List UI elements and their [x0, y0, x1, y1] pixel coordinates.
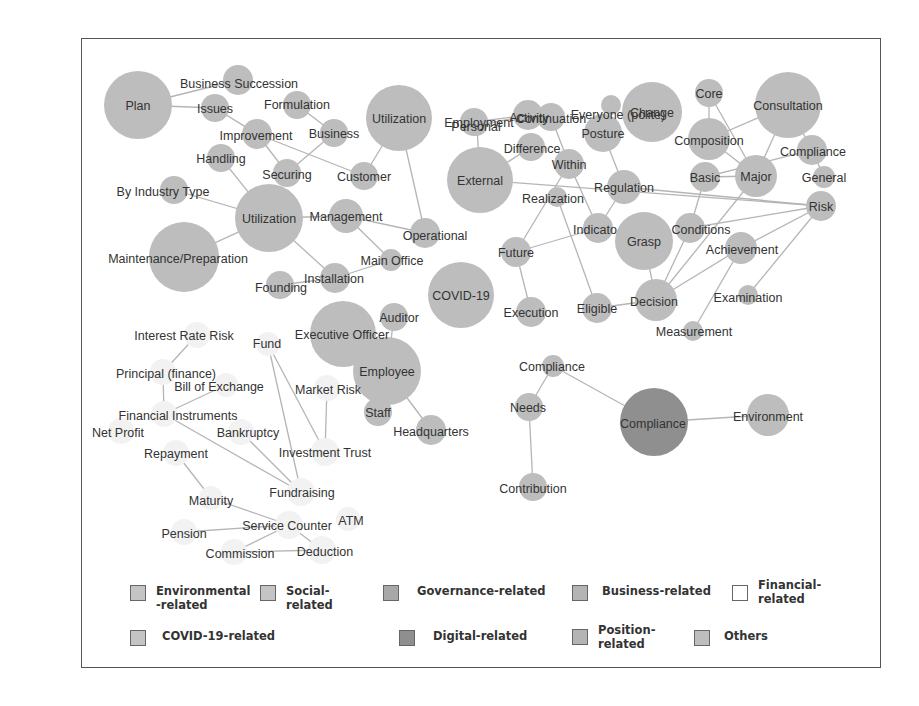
node-label-posture: Posture: [581, 127, 624, 141]
node-label-service-counter: Service Counter: [242, 519, 332, 533]
node-label-operational: Operational: [403, 229, 468, 243]
node-label-covid19: COVID-19: [432, 289, 490, 303]
legend-swatch: [260, 585, 276, 601]
node-label-realization: Realization: [522, 192, 584, 206]
node-label-major: Major: [740, 170, 771, 184]
node-label-conditions: Conditions: [671, 223, 730, 237]
node-label-customer: Customer: [337, 170, 391, 184]
node-label-future: Future: [498, 246, 534, 260]
node-label-improvement: Improvement: [220, 129, 293, 143]
node-label-compliance3: Compliance: [620, 417, 686, 431]
legend-swatch: [732, 585, 748, 601]
node-label-regulation: Regulation: [594, 181, 654, 195]
legend-label: Environmental -related: [156, 584, 250, 612]
node-label-decision: Decision: [630, 295, 678, 309]
node-label-basic: Basic: [690, 171, 721, 185]
node-label-indicator: Indicato: [573, 223, 617, 237]
node-label-installation: Installation: [304, 272, 364, 286]
node-label-commission: Commission: [206, 547, 275, 561]
node-label-pension: Pension: [161, 527, 206, 541]
node-label-external: External: [457, 174, 503, 188]
node-label-fundraising: Fundraising: [269, 486, 334, 500]
node-label-general: General: [802, 171, 846, 185]
legend-swatch: [572, 585, 588, 601]
node-label-founding: Founding: [255, 281, 307, 295]
node-label-atm: ATM: [338, 514, 363, 528]
node-label-principal: Principal (finance): [116, 367, 216, 381]
node-label-maintenance: Maintenance/Preparation: [108, 252, 248, 266]
node-label-business-succession: Business Succession: [180, 77, 298, 91]
node-label-activity: Activity: [509, 111, 549, 125]
node-label-repayment: Repayment: [144, 447, 208, 461]
legend-label: Others: [724, 629, 768, 643]
node-label-main-office: Main Office: [361, 254, 424, 268]
legend-swatch: [130, 585, 146, 601]
node-label-compliance2: Compliance: [519, 360, 585, 374]
node-label-fund: Fund: [253, 337, 282, 351]
node-label-eligible: Eligible: [577, 302, 617, 316]
legend-swatch: [694, 630, 710, 646]
node-label-market-risk: Market Risk: [295, 383, 362, 397]
node-label-financial-instruments: Financial Instruments: [119, 409, 238, 423]
legend-swatch: [383, 585, 399, 601]
node-label-bill-of-exchange: Bill of Exchange: [174, 380, 264, 394]
node-label-examination: Examination: [714, 291, 783, 305]
legend-swatch: [572, 629, 588, 645]
node-label-bankruptcy: Bankruptcy: [217, 426, 280, 440]
legend-label: Digital-related: [433, 629, 527, 643]
node-label-net-profit: Net Profit: [92, 426, 145, 440]
node-label-personal: Personal: [451, 120, 500, 134]
node-label-execution: Execution: [504, 306, 559, 320]
diagram-frame: PlanBusiness SuccessionIssuesFormulation…: [81, 38, 881, 668]
node-label-management: Management: [310, 210, 383, 224]
node-label-utilization1: Utilization: [372, 112, 426, 126]
node-label-achievement: Achievement: [706, 243, 779, 257]
node-label-business: Business: [309, 127, 360, 141]
legend-item-financial: Financial- related: [732, 578, 821, 606]
legend-item-others: Others: [694, 629, 768, 646]
node-label-auditor: Auditor: [379, 311, 419, 325]
node-label-measurement: Measurement: [656, 325, 733, 339]
legend-item-environmental: Environmental -related: [130, 584, 250, 612]
node-label-change: Change: [630, 106, 674, 120]
legend-swatch: [130, 630, 146, 646]
node-label-issues: Issues: [197, 102, 233, 116]
node-label-executive-officer: Executive Officer: [295, 328, 389, 342]
node-label-employee: Employee: [359, 365, 415, 379]
network-graph: PlanBusiness SuccessionIssuesFormulation…: [82, 39, 882, 579]
node-label-plan: Plan: [125, 99, 150, 113]
legend-item-covid: COVID-19-related: [130, 629, 275, 646]
node-label-difference: Difference: [504, 142, 561, 156]
node-label-staff: Staff: [365, 406, 391, 420]
edge-fund-fundraising: [268, 344, 301, 492]
node-label-headquarters: Headquarters: [393, 425, 469, 439]
node-label-compliance1: Compliance: [780, 145, 846, 159]
node-label-investment-trust: Investment Trust: [279, 446, 372, 460]
node-label-risk: Risk: [809, 200, 834, 214]
legend-label: Social- related: [286, 584, 333, 612]
node-label-maturity: Maturity: [189, 494, 234, 508]
legend-item-position: Position- related: [572, 623, 655, 651]
node-label-handling: Handling: [196, 152, 245, 166]
legend-label: Position- related: [598, 623, 655, 651]
node-label-composition: Composition: [674, 134, 744, 148]
node-label-utilization2: Utilization: [242, 212, 296, 226]
node-label-contribution: Contribution: [499, 482, 566, 496]
node-label-securing: Securing: [262, 168, 311, 182]
legend-label: Governance-related: [417, 584, 546, 598]
legend-item-business: Business-related: [572, 584, 711, 601]
node-label-interest-rate-risk: Interest Rate Risk: [134, 329, 234, 343]
node-label-needs: Needs: [510, 401, 546, 415]
node-label-within: Within: [552, 158, 587, 172]
legend-item-governance: Governance-related: [383, 584, 546, 601]
legend-item-social: Social- related: [260, 584, 333, 612]
node-label-deduction: Deduction: [297, 545, 353, 559]
node-label-core: Core: [695, 87, 722, 101]
legend-label: COVID-19-related: [162, 629, 275, 643]
node-label-by-industry-type: By Industry Type: [117, 185, 210, 199]
node-label-grasp: Grasp: [627, 235, 661, 249]
legend-label: Business-related: [602, 584, 711, 598]
node-label-formulation: Formulation: [264, 98, 330, 112]
node-label-consultation: Consultation: [753, 99, 823, 113]
legend-swatch: [399, 630, 415, 646]
